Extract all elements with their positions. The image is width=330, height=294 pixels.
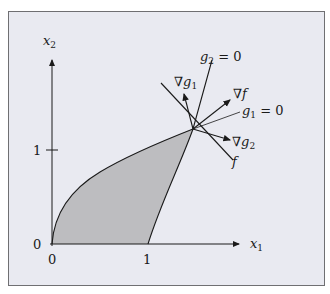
grad-g1-arrow xyxy=(184,94,193,129)
y-tick-label-1: 1 xyxy=(33,144,41,157)
x-axis-label: x1 xyxy=(250,237,263,253)
y-axis-label: x2 xyxy=(43,34,56,50)
g2-line-label: g2 = 0 xyxy=(200,50,242,66)
grad-g2-arrow xyxy=(193,129,230,140)
f-line-label: f xyxy=(232,155,237,168)
y-tick-label-0: 0 xyxy=(33,238,41,251)
x-tick-label-1: 1 xyxy=(143,253,151,266)
x-tick-label-0: 0 xyxy=(48,253,56,266)
grad-g2-label: ∇g2 xyxy=(232,135,255,151)
feasible-region xyxy=(52,129,193,244)
grad-f-arrow xyxy=(193,100,230,129)
g1-line-label: g1 = 0 xyxy=(242,104,284,120)
grad-f-label: ∇f xyxy=(233,87,247,100)
grad-g1-label: ∇g1 xyxy=(174,75,197,91)
g1-tangent-line xyxy=(193,112,240,129)
